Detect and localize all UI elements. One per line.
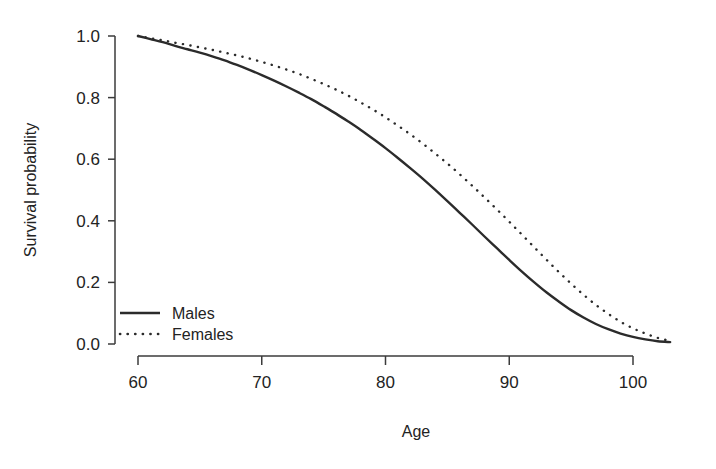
y-axis-title: Survival probability (22, 123, 39, 257)
x-tick-label-90: 90 (500, 373, 519, 392)
legend-label-females: Females (172, 326, 233, 343)
x-axis-tick-labels: 60 70 80 90 100 (129, 373, 648, 392)
x-axis-title: Age (402, 423, 431, 440)
x-tick-label-60: 60 (129, 373, 148, 392)
series-line-females (138, 36, 670, 341)
chart-legend: Males Females (120, 305, 233, 343)
chart-figure: 1.0 0.8 0.6 0.4 0.2 0.0 60 70 80 90 100 … (0, 0, 716, 469)
x-tick-label-80: 80 (376, 373, 395, 392)
y-tick-label-0.0: 0.0 (76, 335, 100, 354)
series-line-males (138, 36, 670, 342)
y-tick-label-0.4: 0.4 (76, 212, 100, 231)
y-tick-label-0.2: 0.2 (76, 273, 100, 292)
x-axis-ticks (138, 356, 633, 365)
y-tick-label-0.8: 0.8 (76, 89, 100, 108)
y-tick-label-1.0: 1.0 (76, 27, 100, 46)
x-tick-label-70: 70 (252, 373, 271, 392)
y-axis-ticks (108, 36, 115, 344)
legend-label-males: Males (172, 305, 215, 322)
x-tick-label-100: 100 (619, 373, 647, 392)
y-tick-label-0.6: 0.6 (76, 150, 100, 169)
survival-curve-chart: 1.0 0.8 0.6 0.4 0.2 0.0 60 70 80 90 100 … (0, 0, 716, 469)
y-axis-tick-labels: 1.0 0.8 0.6 0.4 0.2 0.0 (76, 27, 100, 354)
